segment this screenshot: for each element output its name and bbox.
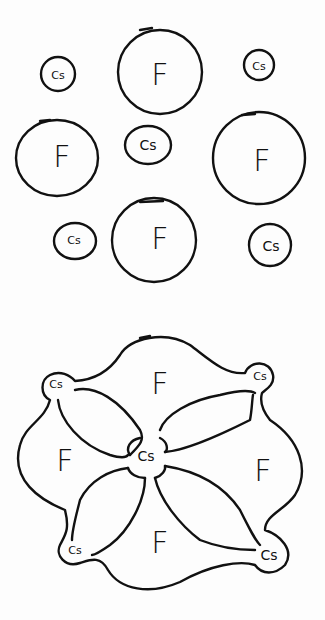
f-label: F — [151, 57, 168, 92]
f-label: F — [151, 221, 168, 256]
cs-label: Cs — [252, 60, 266, 73]
cs-label: Cs — [139, 137, 156, 153]
f-label: F — [151, 525, 168, 560]
cs-label: Cs — [262, 238, 279, 254]
cs-label: Cs — [137, 448, 154, 464]
cs-label: Cs — [51, 69, 65, 82]
bonded-lattice-panel: F Cs Cs F Cs F Cs F Cs — [18, 336, 302, 589]
cs-label: Cs — [260, 547, 277, 563]
cs-label: Cs — [68, 544, 82, 557]
cs-label: Cs — [253, 370, 267, 383]
csf-diagram: Cs F Cs F Cs F Cs F Cs F Cs Cs F Cs F — [0, 0, 325, 620]
f-label: F — [151, 366, 168, 401]
separated-ions-panel: Cs F Cs F Cs F Cs F Cs — [16, 28, 305, 282]
f-label: F — [253, 143, 270, 178]
cs-label: Cs — [49, 378, 63, 391]
f-label: F — [53, 139, 70, 174]
cs-label: Cs — [67, 234, 81, 247]
f-label: F — [56, 443, 73, 478]
f-label: F — [254, 453, 271, 488]
